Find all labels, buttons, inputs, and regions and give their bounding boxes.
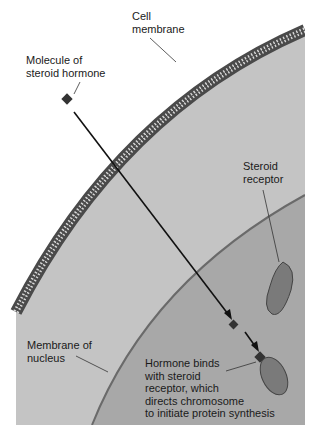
label-steroid-receptor: Steroid receptor — [243, 160, 283, 185]
label-nuclear-membrane: Membrane of nucleus — [27, 339, 92, 364]
label-binding: Hormone binds with steroid receptor, whi… — [145, 357, 275, 420]
hormone-molecule-icon — [61, 93, 72, 104]
label-cell-membrane: Cell membrane — [132, 10, 185, 35]
label-hormone-molecule: Molecule of steroid hormone — [26, 54, 106, 79]
